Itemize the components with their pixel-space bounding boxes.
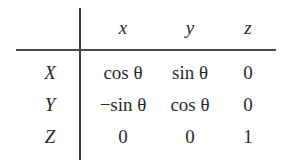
cell-X-z: 0 (228, 62, 268, 84)
column-header-x: x (88, 17, 158, 39)
cell-Z-y: 0 (158, 126, 222, 148)
cell-Y-x: −sin θ (88, 94, 158, 116)
column-header-y: y (158, 17, 222, 39)
cell-Z-x: 0 (88, 126, 158, 148)
column-header-z: z (228, 17, 268, 39)
vertical-divider (79, 8, 81, 160)
cell-Y-z: 0 (228, 94, 268, 116)
cell-Y-y: cos θ (158, 94, 222, 116)
row-label-X: X (30, 62, 70, 84)
row-label-Z: Z (30, 126, 70, 148)
cell-X-x: cos θ (88, 62, 158, 84)
horizontal-divider (16, 49, 276, 51)
cell-X-y: sin θ (158, 62, 222, 84)
row-label-Y: Y (30, 94, 70, 116)
cell-Z-z: 1 (228, 126, 268, 148)
